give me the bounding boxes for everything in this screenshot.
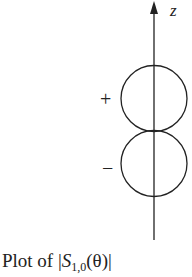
polar-plot: z + − — [0, 0, 192, 277]
z-axis — [150, 1, 158, 240]
upper-sign: + — [100, 88, 111, 110]
arrowhead-icon — [150, 1, 158, 14]
caption-argument: (θ)| — [86, 250, 112, 271]
caption-prefix: Plot of | — [2, 250, 62, 271]
caption-subscript: 1,0 — [71, 260, 86, 274]
caption-symbol: S — [62, 250, 72, 271]
figure-caption: Plot of |S1,0(θ)| — [2, 250, 112, 277]
lower-sign: − — [102, 157, 113, 179]
axis-label: z — [169, 1, 177, 20]
